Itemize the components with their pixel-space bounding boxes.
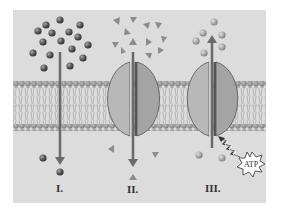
panel-iii-particles-outside	[192, 18, 225, 56]
membrane-transport-diagram: ATP	[0, 0, 282, 209]
panel-ii-particles-outside	[112, 17, 167, 59]
panel-i-label: I.	[56, 182, 63, 194]
atp-label: ATP	[244, 160, 259, 169]
panel-iii-particles-inside	[195, 151, 225, 161]
panel-ii-label: II.	[127, 183, 138, 195]
panel-iii-label: III.	[205, 182, 221, 194]
